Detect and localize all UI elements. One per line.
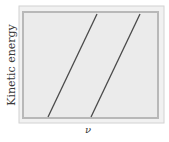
chart-canvas [0, 0, 169, 142]
x-axis-label: ν [85, 124, 91, 135]
y-axis-label: Kinetic energy [5, 24, 18, 106]
